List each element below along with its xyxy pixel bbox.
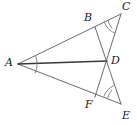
segment-AE [18, 64, 121, 104]
segment-AD [18, 61, 107, 64]
segment-AC [18, 14, 121, 64]
vertex-label-A: A [5, 57, 13, 68]
vertex-label-C: C [122, 1, 130, 12]
vertex-label-E: E [122, 110, 130, 121]
angle-arc-A-upper [36, 55, 37, 63]
angle-arc-E-inner [108, 90, 112, 98]
angle-arc-C-inner [108, 20, 112, 28]
geometry-figure: A B C D E F [0, 0, 137, 125]
vertex-label-F: F [85, 99, 93, 110]
vertex-label-D: D [111, 55, 120, 66]
vertex-label-B: B [84, 12, 92, 23]
